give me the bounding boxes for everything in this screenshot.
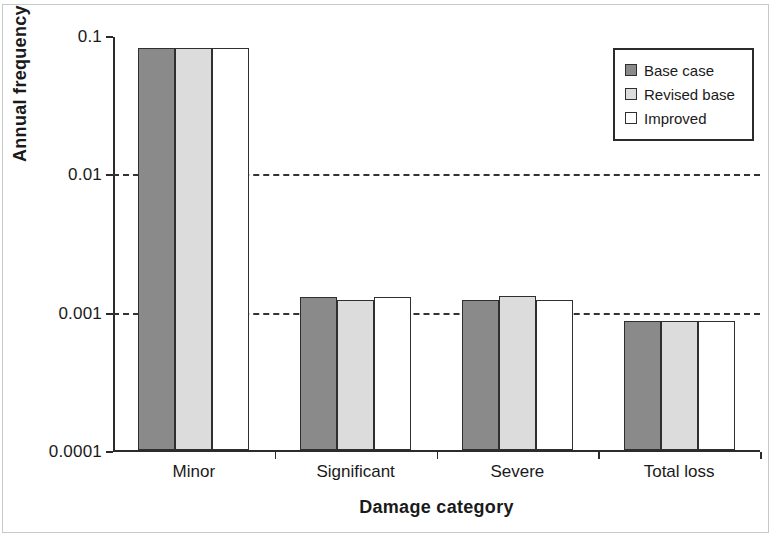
x-tick-label: Minor <box>113 462 275 482</box>
x-axis-title: Damage category <box>113 497 760 518</box>
bar[interactable] <box>300 297 337 450</box>
y-tick-mark <box>106 174 113 176</box>
bar[interactable] <box>374 297 411 450</box>
bar[interactable] <box>698 321 735 450</box>
y-tick-label: 0.0001 <box>49 442 102 462</box>
y-tick-mark <box>106 451 113 453</box>
y-axis-line <box>113 37 115 452</box>
chart-legend: Base case Revised base Improved <box>613 48 754 141</box>
x-tick-mark <box>598 452 600 459</box>
legend-item[interactable]: Improved <box>625 106 742 130</box>
x-tick-label: Total loss <box>598 462 760 482</box>
x-tick-mark <box>437 452 439 459</box>
legend-item-label: Improved <box>644 110 707 127</box>
dark-gray-swatch-icon <box>625 64 637 76</box>
y-tick-mark <box>106 313 113 315</box>
y-axis-title: Annual frequency <box>10 140 31 162</box>
legend-item[interactable]: Base case <box>625 58 742 82</box>
light-gray-swatch-icon <box>625 88 637 100</box>
y-tick-label: 0.1 <box>78 27 102 47</box>
legend-item[interactable]: Revised base <box>625 82 742 106</box>
bar-group <box>300 37 411 450</box>
y-tick-label: 0.01 <box>68 165 102 185</box>
bar-group <box>462 37 573 450</box>
y-tick-label: 0.001 <box>58 304 102 324</box>
bar-group <box>138 37 249 450</box>
bar[interactable] <box>175 48 212 450</box>
y-tick-mark <box>106 36 113 38</box>
bar[interactable] <box>138 48 175 450</box>
x-tick-label: Significant <box>275 462 437 482</box>
chart-canvas: Annual frequency 0.10.010.0010.0001 Mino… <box>0 0 781 551</box>
x-tick-mark <box>760 452 762 459</box>
bar[interactable] <box>462 300 499 450</box>
bar[interactable] <box>499 296 536 450</box>
bar[interactable] <box>624 321 661 450</box>
bar[interactable] <box>536 300 573 450</box>
bar[interactable] <box>337 300 374 450</box>
legend-item-label: Revised base <box>644 86 735 103</box>
white-swatch-icon <box>625 112 637 124</box>
bar[interactable] <box>212 48 249 450</box>
x-tick-label: Severe <box>437 462 599 482</box>
bar[interactable] <box>661 321 698 450</box>
legend-item-label: Base case <box>644 62 714 79</box>
x-tick-mark <box>275 452 277 459</box>
